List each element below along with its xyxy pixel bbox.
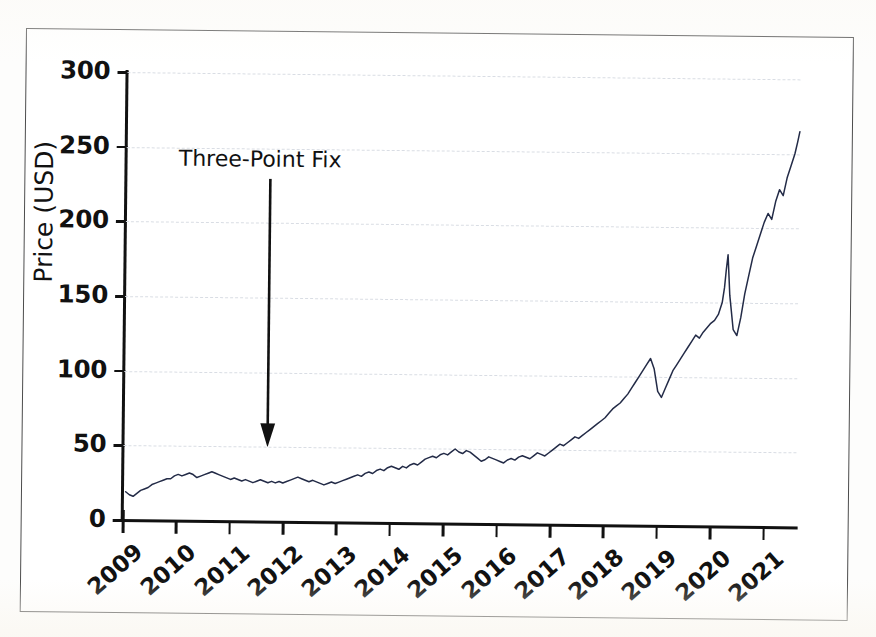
x-tick-label: 2019 — [617, 544, 682, 606]
x-tick — [495, 525, 498, 537]
y-tick-label: 200 — [58, 205, 109, 235]
y-tick-label: 250 — [59, 130, 110, 160]
y-tick-label-group: 300250200150100500 — [27, 29, 853, 38]
x-tick — [655, 527, 658, 539]
x-tick — [442, 525, 445, 537]
y-axis-title: Price (USD) — [28, 117, 59, 307]
x-tick-label: 2021 — [723, 545, 788, 607]
arrow-shaft — [268, 178, 271, 427]
price-series-line — [123, 72, 801, 527]
y-tick-label: 100 — [57, 354, 108, 384]
x-tick — [762, 528, 765, 540]
x-tick-label: 2012 — [243, 540, 308, 602]
y-tick-label: 300 — [60, 55, 111, 85]
figure-frame-wrapper: Price (USD) 300250200150100500 200920102… — [20, 28, 854, 621]
x-tick — [335, 523, 338, 535]
annotation-arrow-icon — [258, 178, 281, 447]
figure-frame: Price (USD) 300250200150100500 200920102… — [20, 28, 854, 621]
x-tick — [281, 523, 284, 535]
x-tick-label-group: 2009201020112012201320142015201620172018… — [27, 29, 853, 38]
x-tick-label: 2015 — [403, 542, 468, 604]
x-tick — [388, 524, 391, 536]
x-tick — [709, 527, 712, 539]
x-tick-label: 2010 — [136, 539, 201, 601]
x-tick — [602, 526, 605, 538]
arrow-head — [260, 423, 275, 447]
x-tick-label: 2013 — [296, 540, 361, 602]
scanned-page: Price (USD) 300250200150100500 200920102… — [0, 0, 876, 637]
y-tick-label: 150 — [57, 279, 108, 309]
x-tick — [549, 526, 552, 538]
x-tick-label: 2011 — [189, 539, 254, 601]
y-tick-label: 0 — [89, 504, 106, 533]
x-tick-label: 2014 — [350, 541, 415, 603]
y-tick-label: 50 — [73, 429, 107, 458]
y-tick-group — [27, 29, 853, 38]
x-tick — [228, 522, 231, 534]
plot-area — [123, 72, 801, 527]
x-tick — [175, 522, 178, 534]
x-tick-label: 2018 — [563, 543, 628, 605]
x-tick-label: 2020 — [670, 545, 735, 607]
x-tick-label: 2017 — [510, 543, 575, 605]
x-tick-label: 2016 — [456, 542, 521, 604]
x-tick-label: 2009 — [82, 538, 147, 600]
annotation-label: Three-Point Fix — [179, 145, 342, 172]
x-tick-group — [27, 29, 853, 38]
